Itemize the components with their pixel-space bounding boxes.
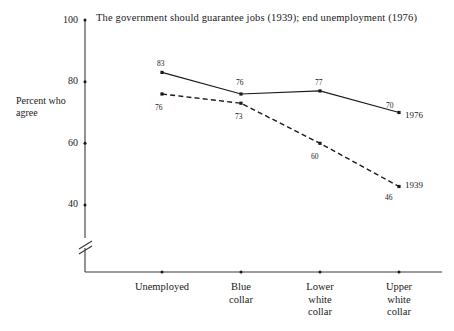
x-tick-mark-upper-white-collar (398, 271, 401, 274)
data-point-marker-1976-2 (318, 89, 321, 92)
point-label-1939-upper-white-collar: 46 (385, 193, 393, 202)
data-point-marker-1939-0 (160, 92, 163, 95)
x-tick-mark-unemployed (161, 271, 164, 274)
line-path-1976 (162, 72, 399, 112)
y-tick-mark-60 (84, 142, 87, 145)
x-category-line-2: collar (204, 294, 278, 307)
x-category-line-3: collar (362, 306, 436, 319)
data-point-marker-1976-1 (239, 92, 242, 95)
x-category-line-2: white (283, 294, 357, 307)
x-category-label-lower-white-collar: Lower white collar (283, 281, 357, 319)
series-label-1976: 1976 (405, 110, 423, 120)
point-label-1939-blue-collar: 73 (235, 112, 243, 121)
line-path-1939 (162, 94, 399, 187)
data-point-marker-1976-3 (397, 111, 400, 114)
x-category-line-2: white (362, 294, 436, 307)
point-label-1976-blue-collar: 76 (236, 78, 244, 87)
series-line-1976 (160, 71, 400, 114)
y-tick-mark-80 (84, 80, 87, 83)
point-label-1939-unemployed: 76 (155, 103, 163, 112)
point-label-1939-lower-white-collar: 60 (311, 152, 319, 161)
x-category-line-1: Unemployed (125, 281, 199, 294)
markers-1939 (160, 92, 400, 188)
series-label-1939: 1939 (405, 180, 423, 190)
chart-figure: The government should guarantee jobs (19… (0, 0, 454, 331)
x-category-label-blue-collar: Blue collar (204, 281, 278, 306)
x-category-line-1: Upper (362, 281, 436, 294)
x-tick-mark-blue-collar (240, 271, 243, 274)
series-line-1939 (160, 92, 400, 188)
point-label-1976-unemployed: 83 (157, 59, 165, 68)
y-tick-mark-40 (84, 204, 87, 207)
x-category-line-1: Blue (204, 281, 278, 294)
data-point-marker-1939-2 (318, 142, 321, 145)
x-category-label-unemployed: Unemployed (125, 281, 199, 294)
x-category-line-1: Lower (283, 281, 357, 294)
point-label-1976-lower-white-collar: 77 (315, 78, 323, 87)
data-point-marker-1939-3 (397, 185, 400, 188)
y-tick-mark-100 (84, 19, 87, 22)
x-category-label-upper-white-collar: Upper white collar (362, 281, 436, 319)
data-point-marker-1939-1 (239, 102, 242, 105)
point-label-1976-upper-white-collar: 70 (386, 101, 394, 110)
data-point-marker-1976-0 (160, 71, 163, 74)
x-tick-mark-lower-white-collar (319, 271, 322, 274)
x-category-line-3: collar (283, 306, 357, 319)
